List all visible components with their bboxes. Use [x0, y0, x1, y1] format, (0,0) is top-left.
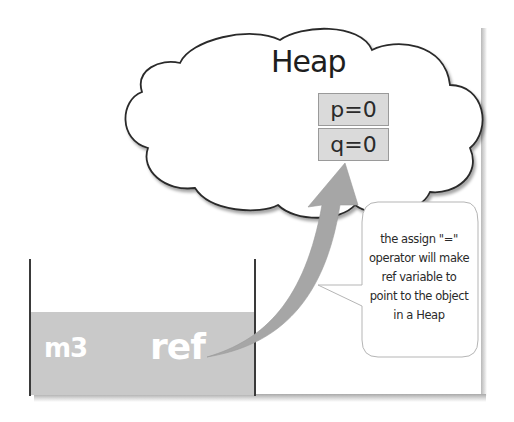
callout-line: ref variable to	[362, 268, 476, 287]
callout-line: point to the object	[362, 287, 476, 306]
heap-field-p: p=0	[318, 93, 389, 126]
heap-title: Heap	[271, 44, 345, 79]
stack-frame-label: m3	[44, 333, 87, 363]
callout-text: the assign "=" operator will make ref va…	[362, 230, 476, 325]
callout-line: in a Heap	[362, 306, 476, 325]
stack-variable-label: ref	[150, 326, 205, 367]
callout-line: the assign "="	[362, 230, 476, 249]
heap-field-q: q=0	[318, 128, 389, 161]
callout-line: operator will make	[362, 249, 476, 268]
